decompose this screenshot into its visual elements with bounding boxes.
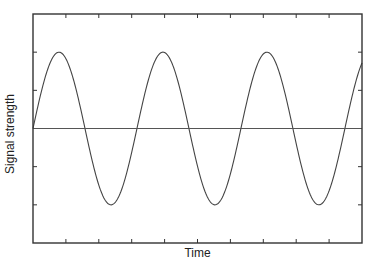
- plot-area: [0, 0, 381, 270]
- y-axis-label: Signal strength: [4, 94, 16, 174]
- x-axis-label: Time: [0, 247, 381, 259]
- chart: Time Signal strength: [0, 0, 381, 270]
